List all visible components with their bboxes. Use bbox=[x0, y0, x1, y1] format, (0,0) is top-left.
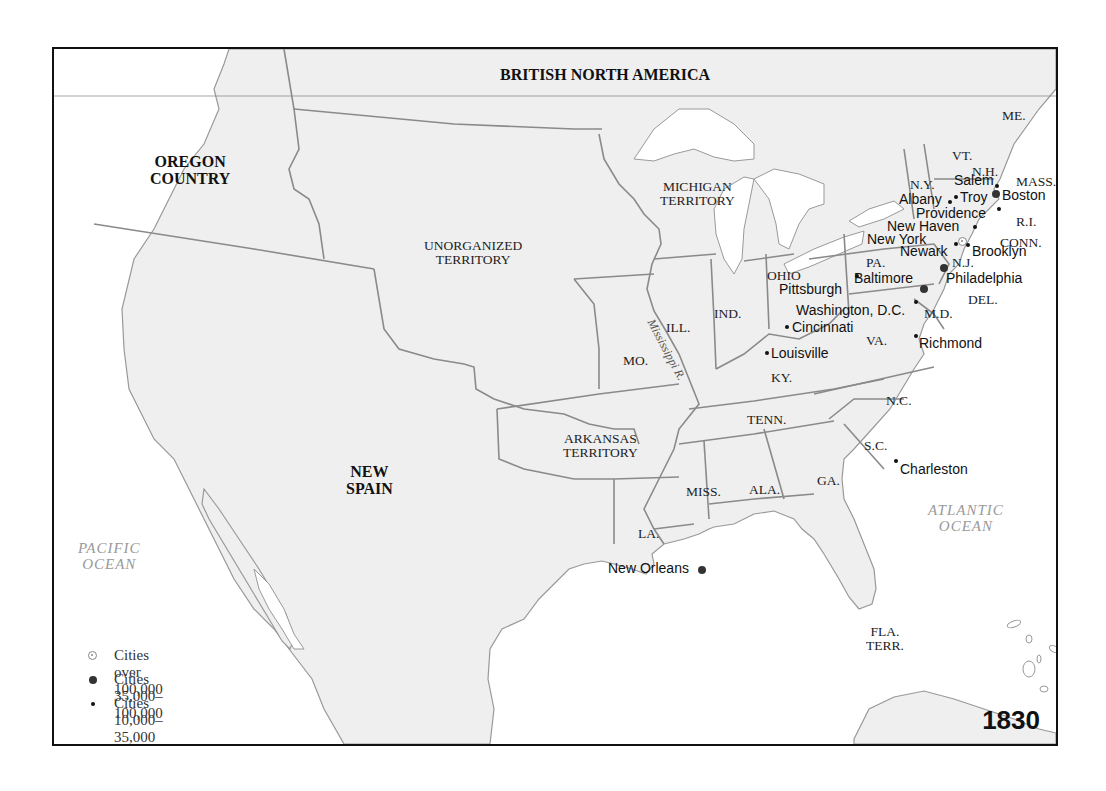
label-state-tenn: TENN. bbox=[747, 413, 786, 427]
label-atlantic-ocean: ATLANTIC OCEAN bbox=[928, 503, 1004, 535]
label-new-spain: NEW SPAIN bbox=[346, 464, 393, 498]
map-frame: BRITISH NORTH AMERICA OREGON COUNTRY NEW… bbox=[52, 47, 1058, 746]
city-dot-charleston bbox=[894, 459, 898, 463]
city-dot-albany bbox=[948, 200, 952, 204]
landmass bbox=[122, 49, 1056, 744]
label-state-sc: S.C. bbox=[864, 439, 887, 453]
city-label-new-orleans: New Orleans bbox=[608, 560, 689, 576]
label-state-nj: N.J. bbox=[952, 256, 974, 270]
label-oregon-country: OREGON COUNTRY bbox=[150, 154, 230, 188]
city-label-charleston: Charleston bbox=[900, 461, 968, 477]
label-state-ri: R.I. bbox=[1016, 215, 1036, 229]
city-dot-cincinnati bbox=[785, 325, 789, 329]
city-dot-providence bbox=[997, 207, 1001, 211]
large-dot-icon bbox=[88, 675, 98, 685]
city-label-philadelphia: Philadelphia bbox=[946, 270, 1022, 286]
label-unorganized-territory: UNORGANIZED TERRITORY bbox=[424, 239, 522, 267]
label-state-vt: VT. bbox=[952, 149, 972, 163]
city-label-new-haven: New Haven bbox=[887, 218, 959, 234]
label-state-ala: ALA. bbox=[749, 483, 780, 497]
city-label-salem: Salem bbox=[954, 172, 994, 188]
label-state-ky: KY. bbox=[771, 371, 792, 385]
label-state-ind: IND. bbox=[714, 307, 741, 321]
legend-label: Cities 10,000–35,000 bbox=[114, 695, 163, 746]
city-dot-richmond bbox=[914, 334, 918, 338]
city-label-louisville: Louisville bbox=[771, 345, 829, 361]
label-state-la: LA. bbox=[638, 527, 659, 541]
city-dot-washington bbox=[914, 300, 918, 304]
open-circle-icon bbox=[88, 651, 98, 661]
city-label-newark: Newark bbox=[900, 243, 947, 259]
label-state-ga: GA. bbox=[817, 474, 840, 488]
label-state-va: VA. bbox=[866, 334, 887, 348]
city-dot-new-haven bbox=[973, 225, 977, 229]
label-pacific-ocean: PACIFIC OCEAN bbox=[78, 541, 141, 573]
label-arkansas-territory: ARKANSAS TERRITORY bbox=[563, 432, 638, 460]
label-state-ill: ILL. bbox=[666, 321, 690, 335]
city-label-washington: Washington, D.C. bbox=[796, 302, 905, 318]
city-label-boston: Boston bbox=[1002, 187, 1046, 203]
city-label-baltimore: Baltimore bbox=[854, 270, 913, 286]
label-british-north-america: BRITISH NORTH AMERICA bbox=[500, 67, 710, 84]
city-dot-louisville bbox=[765, 351, 769, 355]
city-label-cincinnati: Cincinnati bbox=[792, 319, 853, 335]
label-michigan-territory: MICHIGAN TERRITORY bbox=[660, 180, 735, 208]
city-dot-boston bbox=[992, 190, 1000, 198]
map-year: 1830 bbox=[982, 705, 1040, 736]
label-state-nc: N.C. bbox=[886, 394, 912, 408]
small-dot-icon bbox=[88, 699, 98, 709]
bahamas bbox=[1006, 619, 1056, 692]
city-dot-new-orleans bbox=[698, 566, 706, 574]
label-state-del: DEL. bbox=[968, 293, 998, 307]
city-label-troy: Troy bbox=[960, 189, 987, 205]
city-dot-brooklyn bbox=[966, 243, 970, 247]
city-label-brooklyn: Brooklyn bbox=[972, 243, 1026, 259]
city-label-pittsburgh: Pittsburgh bbox=[779, 281, 842, 297]
city-dot-salem bbox=[995, 184, 999, 188]
city-dot-pittsburgh bbox=[855, 274, 859, 278]
city-dot-baltimore bbox=[920, 285, 928, 293]
label-state-md: M.D. bbox=[924, 307, 953, 321]
label-state-me: ME. bbox=[1002, 109, 1026, 123]
label-florida-territory: FLA. TERR. bbox=[866, 625, 904, 653]
label-state-pa: PA. bbox=[866, 256, 885, 270]
city-dot-newark bbox=[954, 242, 958, 246]
label-state-mo: MO. bbox=[623, 354, 648, 368]
label-state-miss: MISS. bbox=[686, 485, 721, 499]
city-dot-troy bbox=[954, 195, 958, 199]
city-label-richmond: Richmond bbox=[919, 335, 982, 351]
